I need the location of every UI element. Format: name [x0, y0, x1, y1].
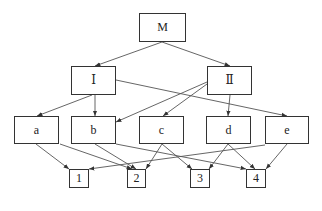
node-label: b [91, 123, 97, 138]
node-label: d [226, 123, 232, 138]
node-e: e [265, 116, 309, 144]
node-b: b [71, 116, 116, 144]
node-M: M [139, 13, 186, 42]
node-c: c [139, 116, 184, 144]
node-I: Ⅰ [71, 66, 116, 95]
node-3: 3 [190, 169, 210, 188]
node-label: Ⅱ [225, 73, 233, 88]
node-label: a [34, 123, 39, 138]
node-2: 2 [127, 169, 146, 188]
edge-a-to-1 [36, 144, 69, 169]
edge-I-to-a [37, 95, 92, 116]
node-d: d [206, 116, 251, 144]
edge-M-to-I [95, 42, 162, 66]
node-1: 1 [69, 169, 89, 188]
node-label: 3 [197, 171, 203, 186]
node-label: c [159, 123, 164, 138]
edge-M-to-II [162, 42, 230, 66]
hierarchy-diagram: M Ⅰ Ⅱ a b c d e 1 2 3 4 [0, 0, 322, 211]
node-label: M [157, 20, 168, 35]
edge-II-to-d [228, 95, 230, 116]
node-label: 4 [253, 171, 259, 186]
edge-c-to-2 [146, 144, 162, 169]
node-4: 4 [246, 169, 266, 188]
node-label: e [284, 123, 289, 138]
node-label: 2 [134, 171, 140, 186]
edge-II-to-c [163, 84, 207, 116]
node-a: a [14, 116, 59, 144]
node-label: Ⅰ [91, 73, 96, 88]
edge-c-to-3 [162, 144, 192, 169]
edge-e-to-1 [89, 145, 265, 169]
node-label: 1 [76, 171, 82, 186]
edge-e-to-4 [266, 144, 287, 169]
node-II: Ⅱ [207, 66, 252, 95]
edge-d-to-4 [228, 144, 255, 169]
edge-a-to-2 [60, 144, 132, 169]
